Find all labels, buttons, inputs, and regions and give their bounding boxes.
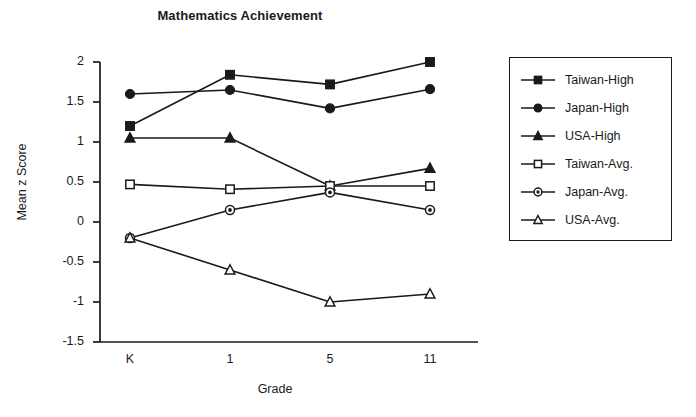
legend-marker: [534, 132, 542, 140]
series-marker-half-circle: [328, 191, 332, 195]
legend-sample-graphic: [519, 100, 557, 116]
series-marker-filled-circle: [226, 86, 235, 95]
series-marker-filled-square: [226, 71, 234, 79]
legend-label: Japan-High: [565, 101, 629, 115]
legend-item[interactable]: Taiwan-High: [519, 67, 634, 93]
series-marker-open-square: [226, 185, 234, 193]
legend-marker: [534, 76, 541, 83]
series-marker-half-circle: [428, 208, 432, 212]
legend-sample-graphic: [519, 72, 557, 88]
legend-item[interactable]: USA-High: [519, 123, 621, 149]
chart-figure: Mathematics Achievement Mean z Score Gra…: [0, 0, 696, 417]
legend-marker-filled-circle-icon: [519, 100, 557, 116]
series-marker-filled-square: [326, 80, 334, 88]
series-marker-open-square: [126, 180, 134, 188]
legend-sample-graphic: [519, 128, 557, 144]
series-line: [130, 62, 430, 126]
legend-marker-open-square-icon: [519, 156, 557, 172]
series-marker-filled-circle: [126, 90, 135, 99]
series-marker-open-square: [426, 182, 434, 190]
legend-item[interactable]: Japan-High: [519, 95, 629, 121]
legend-label: USA-Avg.: [565, 213, 620, 227]
legend-label: USA-High: [565, 129, 621, 143]
chart-legend: Taiwan-HighJapan-HighUSA-HighTaiwan-Avg.…: [509, 57, 672, 241]
legend-marker: [534, 216, 542, 224]
series-marker-filled-square: [426, 58, 434, 66]
series-line: [130, 238, 430, 302]
series-line: [130, 138, 430, 186]
legend-sample-graphic: [519, 212, 557, 228]
legend-item[interactable]: Japan-Avg.: [519, 179, 628, 205]
legend-marker: [534, 160, 541, 167]
series-line: [130, 192, 430, 238]
legend-marker-filled-triangle-icon: [519, 128, 557, 144]
legend-item[interactable]: USA-Avg.: [519, 207, 620, 233]
series-line: [130, 89, 430, 108]
legend-sample-graphic: [519, 184, 557, 200]
series-marker-filled-square: [126, 122, 134, 130]
series-marker-filled-circle: [426, 85, 435, 94]
legend-label: Taiwan-High: [565, 73, 634, 87]
legend-sample-graphic: [519, 156, 557, 172]
legend-marker: [534, 104, 542, 112]
series-marker-open-triangle: [425, 289, 435, 298]
legend-marker-open-triangle-icon: [519, 212, 557, 228]
series-marker-filled-circle: [326, 104, 335, 113]
series-line: [130, 184, 430, 189]
legend-label: Taiwan-Avg.: [565, 157, 633, 171]
series-marker-filled-triangle: [425, 163, 435, 172]
legend-marker-half-circle-icon: [519, 184, 557, 200]
series-marker-half-circle: [228, 208, 232, 212]
legend-label: Japan-Avg.: [565, 185, 628, 199]
legend-item[interactable]: Taiwan-Avg.: [519, 151, 633, 177]
legend-marker-filled-square-icon: [519, 72, 557, 88]
legend-marker: [536, 190, 539, 193]
